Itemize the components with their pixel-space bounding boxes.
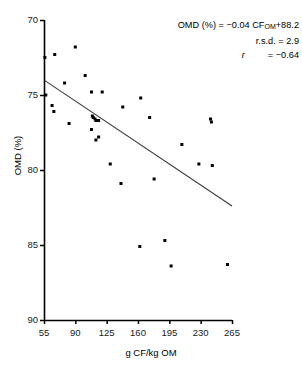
data-point bbox=[209, 118, 212, 121]
data-point bbox=[97, 136, 100, 139]
data-point bbox=[148, 116, 151, 119]
data-point bbox=[121, 106, 124, 109]
y-axis-title: OMD (%) bbox=[12, 121, 23, 191]
x-tick-label: 265 bbox=[216, 327, 248, 338]
y-axis-ticks bbox=[40, 21, 44, 321]
annotation-equation: OMD (%) = −0.04 CFOM+88.2 bbox=[133, 18, 299, 34]
x-tick-label: 230 bbox=[185, 327, 217, 338]
data-point bbox=[138, 245, 141, 248]
data-point bbox=[101, 91, 104, 94]
r-label: r bbox=[242, 48, 268, 62]
x-tick-label: 55 bbox=[28, 327, 60, 338]
data-point bbox=[63, 82, 66, 85]
data-point bbox=[94, 119, 97, 122]
equation-prefix: OMD (%) = −0.04 CF bbox=[178, 20, 265, 30]
axes bbox=[44, 20, 232, 321]
data-point bbox=[139, 97, 142, 100]
y-tick-label: 80 bbox=[6, 164, 38, 175]
y-tick-label: 75 bbox=[6, 89, 38, 100]
data-point bbox=[153, 178, 156, 181]
rsd-label: r.s.d. = bbox=[256, 36, 284, 46]
data-point bbox=[197, 163, 200, 166]
y-tick-label: 70 bbox=[6, 14, 38, 25]
data-point bbox=[97, 119, 100, 122]
x-tick-label: 195 bbox=[153, 327, 185, 338]
data-point bbox=[43, 56, 46, 59]
x-tick-label: 125 bbox=[91, 327, 123, 338]
data-point bbox=[44, 94, 47, 97]
data-point bbox=[74, 46, 77, 49]
data-point bbox=[210, 121, 213, 124]
r-value: −0.64 bbox=[276, 50, 299, 60]
data-point bbox=[180, 143, 183, 146]
regression-line bbox=[45, 81, 232, 206]
data-point bbox=[90, 128, 93, 131]
data-point bbox=[51, 104, 54, 107]
data-point bbox=[109, 163, 112, 166]
data-point bbox=[119, 182, 122, 185]
x-tick-label: 90 bbox=[59, 327, 91, 338]
data-point bbox=[226, 263, 229, 266]
x-axis-title: g CF/kg OM bbox=[0, 347, 302, 358]
regression-annotation: OMD (%) = −0.04 CFOM+88.2 r.s.d. = 2.9 r… bbox=[133, 18, 299, 62]
data-point bbox=[90, 91, 93, 94]
annotation-r: r= −0.64 bbox=[133, 48, 299, 62]
y-tick-label: 90 bbox=[6, 314, 38, 325]
x-tick-label: 160 bbox=[122, 327, 154, 338]
data-point bbox=[52, 110, 55, 113]
data-point bbox=[53, 53, 56, 56]
equation-subscript: OM bbox=[264, 23, 275, 30]
data-point bbox=[94, 139, 97, 142]
data-point bbox=[84, 74, 87, 77]
annotation-rsd: r.s.d. = 2.9 bbox=[133, 34, 299, 48]
rsd-value: 2.9 bbox=[286, 36, 299, 46]
data-point bbox=[170, 265, 173, 268]
data-points bbox=[43, 46, 229, 268]
data-point bbox=[163, 239, 166, 242]
scatter-plot-figure: OMD (%) g CF/kg OM OMD (%) = −0.04 CFOM+… bbox=[0, 0, 302, 369]
y-tick-label: 85 bbox=[6, 239, 38, 250]
regression-fit-line bbox=[45, 81, 232, 206]
r-equals: = bbox=[268, 50, 273, 60]
equation-suffix: +88.2 bbox=[276, 20, 299, 30]
data-point bbox=[211, 164, 214, 167]
data-point bbox=[68, 122, 71, 125]
